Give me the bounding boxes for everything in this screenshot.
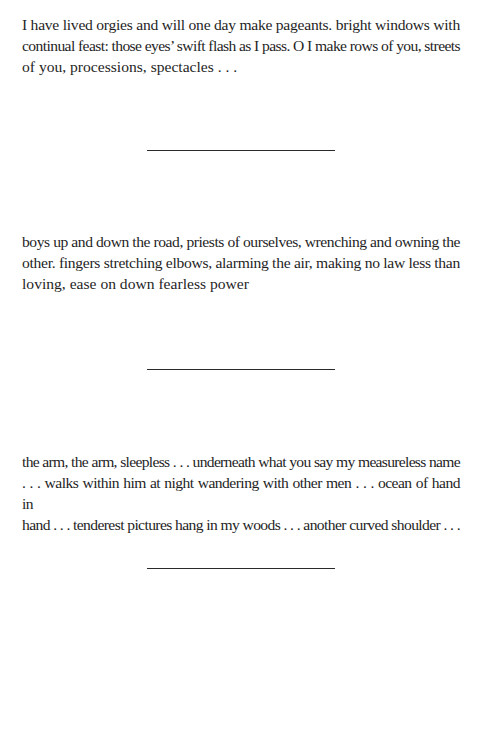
stanza-line: the arm, the arm, sleepless . . . undern… — [22, 451, 460, 472]
section-divider — [147, 150, 335, 151]
section-divider — [147, 369, 335, 370]
stanza-line: hand . . . tenderest pictures hang in my… — [22, 514, 460, 535]
section-divider — [147, 568, 335, 569]
stanza-line: . . . walks within him at night wanderin… — [22, 472, 460, 514]
stanza-2: boys up and down the road, priests of ou… — [22, 231, 460, 294]
stanza-line: other. fingers stretching elbows, alarmi… — [22, 252, 460, 273]
stanza-line: boys up and down the road, priests of ou… — [22, 231, 460, 252]
stanza-line: continual feast: those eyes’ swift flash… — [22, 35, 460, 56]
stanza-line: I have lived orgies and will one day mak… — [22, 14, 460, 35]
stanza-3: the arm, the arm, sleepless . . . undern… — [22, 451, 460, 535]
stanza-1: I have lived orgies and will one day mak… — [22, 14, 460, 77]
stanza-line: of you, processions, spectacles . . . — [22, 56, 460, 77]
stanza-line: loving, ease on down fearless power — [22, 273, 460, 294]
